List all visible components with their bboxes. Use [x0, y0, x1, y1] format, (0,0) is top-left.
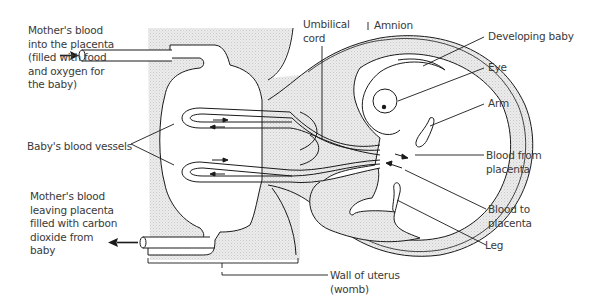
label-blood-to-placenta: Blood to placenta: [488, 203, 532, 230]
label-developing-baby: Developing baby: [488, 30, 574, 44]
label-leg: Leg: [485, 239, 503, 253]
label-blood-from-placenta: Blood from placenta: [486, 149, 541, 176]
label-mother-blood-out: Mother's blood leaving placenta filled w…: [30, 190, 117, 258]
label-arm: Arm: [488, 97, 509, 111]
outflow-pipe: [140, 237, 215, 248]
label-eye: Eye: [488, 61, 507, 75]
eye-icon: [382, 105, 386, 109]
label-umbilical-cord: Umbilical cord: [303, 18, 350, 45]
label-mother-blood-in: Mother's blood into the placenta (filled…: [28, 24, 114, 92]
placenta-diagram: Mother's blood into the placenta (filled…: [0, 0, 596, 307]
label-wall-of-uterus: Wall of uterus (womb): [330, 269, 400, 296]
label-baby-blood-vessels: Baby's blood vessels: [27, 140, 132, 154]
label-amnion: Amnion: [374, 19, 413, 33]
